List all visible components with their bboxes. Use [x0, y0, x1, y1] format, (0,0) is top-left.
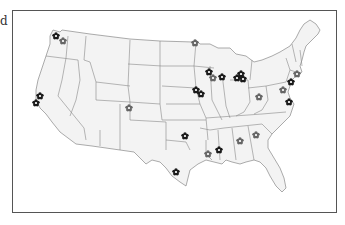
flower-icon[interactable]: [191, 39, 198, 46]
us-outline: [36, 20, 320, 192]
us-map: [0, 0, 345, 225]
